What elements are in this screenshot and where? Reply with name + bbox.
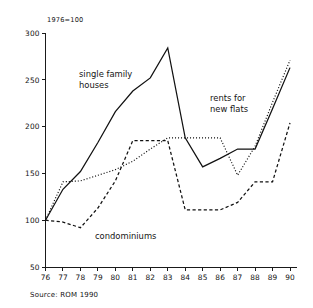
annotation-single-family-houses-line1: single family	[79, 69, 132, 79]
x-tick-label-87: 87	[233, 273, 243, 282]
series-line-condominiums	[46, 123, 291, 228]
x-tick-label-81: 81	[128, 273, 138, 282]
y-tick-label-150: 150	[25, 169, 40, 178]
y-axis: 50100150200250300	[25, 29, 45, 272]
annotation-single-family-houses: single family houses	[79, 69, 132, 90]
x-tick-label-80: 80	[111, 273, 121, 282]
y-tick-label-250: 250	[25, 76, 40, 85]
y-tick-label-300: 300	[25, 29, 40, 38]
x-tick-label-88: 88	[250, 273, 260, 282]
annotation-condominiums: condominiums	[95, 231, 156, 241]
annotation-rents-for-new-flats-line2: new flats	[210, 104, 248, 114]
x-tick-label-76: 76	[41, 273, 51, 282]
x-tick-label-82: 82	[145, 273, 155, 282]
chart-figure: 50100150200250300 7677787980818283848586…	[0, 0, 313, 308]
y-tick-label-100: 100	[25, 216, 40, 225]
chart-canvas: 50100150200250300 7677787980818283848586…	[0, 0, 313, 308]
x-tick-label-89: 89	[268, 273, 278, 282]
annotation-rents-for-new-flats-line1: rents for	[210, 93, 246, 103]
x-tick-label-79: 79	[93, 273, 103, 282]
unit-note: 1976=100	[47, 16, 84, 24]
y-tick-label-200: 200	[25, 122, 40, 131]
x-tick-label-86: 86	[215, 273, 225, 282]
annotation-rents-for-new-flats: rents for new flats	[210, 93, 248, 114]
source-note: Source: ROM 1990	[30, 291, 98, 299]
x-tick-label-90: 90	[285, 273, 295, 282]
x-tick-label-83: 83	[163, 273, 173, 282]
x-tick-label-85: 85	[198, 273, 208, 282]
annotation-single-family-houses-line2: houses	[79, 80, 109, 90]
x-axis: 767778798081828384858687888990	[41, 267, 297, 282]
annotation-condominiums-line1: condominiums	[95, 231, 156, 241]
x-tick-label-84: 84	[180, 273, 190, 282]
y-tick-label-50: 50	[30, 263, 40, 272]
y-tick-group: 50100150200250300	[25, 29, 45, 272]
x-tick-group: 767778798081828384858687888990	[41, 267, 295, 282]
x-tick-label-78: 78	[76, 273, 86, 282]
x-tick-label-77: 77	[58, 273, 68, 282]
